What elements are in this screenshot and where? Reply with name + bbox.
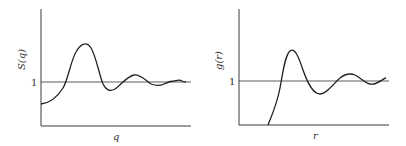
y-axis-label: g(r)	[213, 51, 224, 70]
x-axis-label: r	[313, 130, 319, 141]
y-tick-one: 1	[229, 76, 235, 87]
y-axis-label: S(q)	[16, 49, 27, 70]
structure-factor-curve	[41, 44, 186, 104]
y-tick-one: 1	[31, 77, 37, 88]
radial-distribution-curve	[268, 50, 386, 125]
structure-factor-panel: 1 S(q) q	[16, 9, 191, 142]
figure: 1 S(q) q 1 g(r) r	[0, 0, 406, 146]
x-axis-label: q	[113, 131, 119, 142]
radial-distribution-panel: 1 g(r) r	[213, 9, 389, 141]
